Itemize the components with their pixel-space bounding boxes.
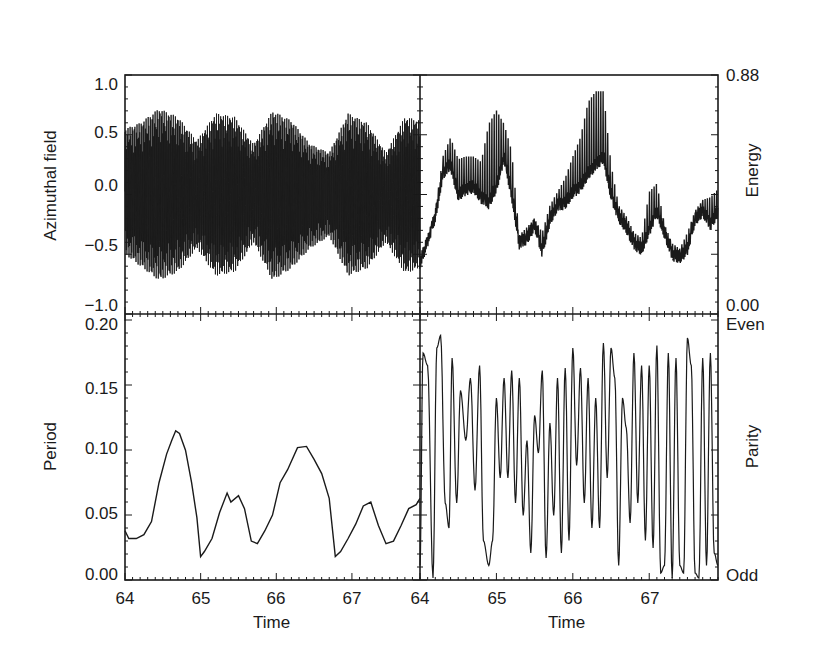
x-tick-label: 67 — [332, 590, 372, 607]
x-tick-label: 66 — [256, 590, 296, 607]
y-axis-title-parity: Parity — [744, 407, 761, 487]
four-panel-figure: 1.0 0.5 0.0 −0.5 −1.0 0.20 0.15 0.10 0.0… — [0, 0, 816, 667]
energy-min-label: 0.00 — [726, 297, 759, 314]
x-tick-label: 66 — [553, 590, 593, 607]
x-tick-label: 67 — [630, 590, 670, 607]
x-axis-title-right: Time — [548, 614, 585, 631]
y-tick-label: 0.15 — [58, 380, 118, 397]
period-line — [125, 431, 420, 557]
parity-odd-label: Odd — [726, 567, 758, 584]
azimuthal-field-line — [125, 110, 420, 278]
y-tick-label: 0.20 — [58, 316, 118, 333]
y-tick-label: −1.0 — [58, 297, 118, 314]
plot-canvas — [0, 0, 816, 667]
y-tick-label: −0.5 — [58, 237, 118, 254]
parity-even-label: Even — [726, 316, 765, 333]
energy-max-label: 0.88 — [726, 67, 759, 84]
y-tick-label: 0.00 — [58, 566, 118, 583]
y-tick-label: 0.0 — [58, 177, 118, 194]
y-axis-title-period: Period — [42, 377, 59, 517]
parity-line — [420, 336, 718, 579]
x-tick-label: 64 — [105, 590, 145, 607]
x-tick-label: 65 — [477, 590, 517, 607]
y-tick-label: 0.10 — [58, 440, 118, 457]
energy-line — [420, 91, 718, 267]
x-tick-label: 64 — [400, 590, 440, 607]
y-tick-label: 0.5 — [58, 124, 118, 141]
y-tick-label: 1.0 — [58, 76, 118, 93]
y-axis-title-azimuthal-field: Azimuthal field — [42, 116, 59, 256]
y-axis-title-energy: Energy — [744, 131, 761, 211]
x-axis-title-left: Time — [253, 614, 290, 631]
y-tick-label: 0.05 — [58, 505, 118, 522]
x-tick-label: 65 — [181, 590, 221, 607]
